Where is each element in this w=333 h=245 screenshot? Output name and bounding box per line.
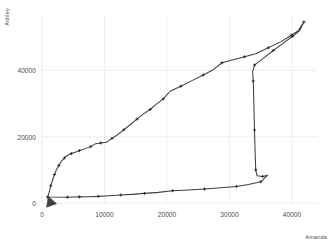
x-axis-title: Amanda bbox=[305, 234, 327, 240]
chart-plot-area bbox=[0, 0, 333, 245]
chart-container: 010000200003000040000 02000040000 Ashley… bbox=[0, 0, 333, 245]
y-axis-title: Ashley bbox=[4, 8, 10, 26]
x-tick-10000: 10000 bbox=[95, 211, 114, 218]
data-point-markers bbox=[46, 20, 305, 198]
y-tick-0: 0 bbox=[8, 200, 36, 207]
direction-arrow-annotation bbox=[47, 196, 57, 207]
x-tick-30000: 30000 bbox=[220, 211, 239, 218]
x-tick-20000: 20000 bbox=[158, 211, 177, 218]
y-tick-20000: 20000 bbox=[8, 133, 36, 140]
data-series-trajectory bbox=[48, 22, 304, 197]
x-tick-0: 0 bbox=[40, 211, 44, 218]
y-tick-40000: 40000 bbox=[8, 67, 36, 74]
x-tick-40000: 40000 bbox=[283, 211, 302, 218]
gridlines bbox=[42, 14, 317, 203]
